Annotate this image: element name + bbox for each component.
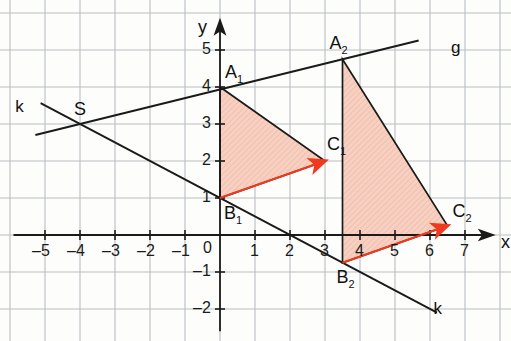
diagram-canvas bbox=[0, 0, 511, 341]
point-label-text: C bbox=[327, 134, 340, 154]
x-tick-label: –4 bbox=[67, 243, 85, 259]
y-tick-label: 3 bbox=[202, 115, 211, 131]
point-label-subscript: 1 bbox=[237, 73, 243, 85]
point-label-c2: C2 bbox=[453, 202, 472, 224]
line-label-g: g bbox=[451, 39, 460, 56]
y-tick-label: 5 bbox=[202, 41, 211, 57]
point-label-text: A bbox=[330, 33, 342, 53]
line-label-k: k bbox=[434, 300, 443, 317]
point-label-text: S bbox=[74, 99, 86, 119]
x-tick-label: 6 bbox=[425, 243, 434, 259]
x-tick-label: 2 bbox=[285, 243, 294, 259]
y-tick-label: 2 bbox=[202, 152, 211, 168]
x-tick-label: 4 bbox=[355, 243, 364, 259]
x-axis-label: x bbox=[501, 233, 510, 251]
y-tick-label: –2 bbox=[193, 300, 211, 316]
point-label-subscript: 2 bbox=[466, 211, 472, 223]
coordinate-diagram: x y 0 –5–4–3–2–11234567 54321–1–2 S A1 B… bbox=[0, 0, 511, 341]
origin-label: 0 bbox=[203, 240, 212, 256]
x-tick-label: –1 bbox=[172, 243, 190, 259]
x-tick-label: –5 bbox=[32, 243, 50, 259]
point-label-subscript: 1 bbox=[236, 214, 242, 226]
point-label-b1: B1 bbox=[224, 204, 242, 226]
point-label-b2: B2 bbox=[337, 268, 355, 290]
point-label-s: S bbox=[74, 100, 86, 118]
x-tick-label: –2 bbox=[137, 243, 155, 259]
point-label-text: B bbox=[337, 267, 349, 287]
y-tick-label: –1 bbox=[193, 263, 211, 279]
point-label-c1: C1 bbox=[327, 135, 346, 157]
x-tick-label: 1 bbox=[250, 243, 259, 259]
line-label-k-left: k bbox=[15, 98, 24, 115]
point-label-subscript: 2 bbox=[342, 44, 348, 56]
point-label-text: B bbox=[224, 203, 236, 223]
triangle-1-shape bbox=[220, 87, 325, 198]
point-label-text: A bbox=[225, 62, 237, 82]
x-tick-label: 5 bbox=[390, 243, 399, 259]
x-tick-label: 7 bbox=[460, 243, 469, 259]
x-tick-label: 3 bbox=[320, 243, 329, 259]
y-tick-label: 4 bbox=[202, 78, 211, 94]
point-label-subscript: 2 bbox=[349, 277, 355, 289]
point-label-text: C bbox=[453, 201, 466, 221]
y-axis-label: y bbox=[198, 18, 207, 36]
y-tick-label: 1 bbox=[202, 189, 211, 205]
point-label-subscript: 1 bbox=[340, 145, 346, 157]
point-label-a2: A2 bbox=[330, 34, 348, 56]
point-label-a1: A1 bbox=[225, 63, 243, 85]
x-tick-label: –3 bbox=[102, 243, 120, 259]
